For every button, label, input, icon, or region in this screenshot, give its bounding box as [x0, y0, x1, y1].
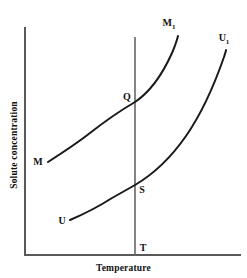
label-point-u: U	[58, 215, 65, 226]
x-axis-title: Temperature	[0, 263, 247, 273]
label-point-t: T	[140, 242, 147, 253]
label-point-q: Q	[123, 91, 131, 102]
label-point-m: M	[33, 156, 43, 167]
label-point-s: S	[139, 184, 145, 195]
curve-m-m1	[48, 36, 178, 162]
diagram-canvas: M M1 U U1 Q S T	[0, 0, 247, 278]
label-point-m1-subscript: 1	[172, 23, 176, 31]
label-point-m1: M1	[163, 17, 176, 31]
label-point-u1-subscript: 1	[226, 38, 230, 46]
curve-u-u1	[70, 50, 226, 220]
label-point-u1-base: U	[219, 32, 226, 43]
label-point-u1: U1	[219, 32, 230, 46]
solubility-diagram: M M1 U U1 Q S T Temperature Solute conce…	[0, 0, 247, 278]
